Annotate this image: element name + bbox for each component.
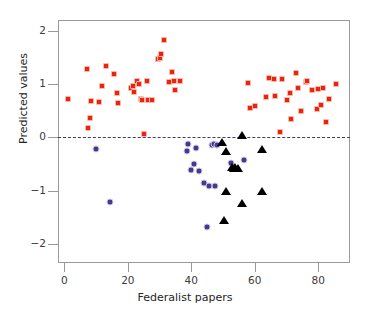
data-point-square	[85, 125, 91, 131]
data-point-square	[149, 97, 155, 103]
plot-area	[58, 20, 350, 263]
x-axis-tick	[318, 263, 319, 272]
data-point-square	[115, 100, 121, 106]
data-point-circle	[212, 182, 219, 189]
data-point-triangle	[237, 131, 247, 139]
data-points-layer	[59, 21, 349, 262]
data-point-circle	[183, 148, 190, 155]
data-point-circle	[196, 168, 203, 175]
data-point-square	[318, 102, 324, 108]
data-point-square	[111, 71, 117, 77]
data-point-square	[279, 76, 285, 82]
data-point-square	[96, 99, 102, 105]
data-point-square	[99, 83, 105, 89]
data-point-square	[169, 69, 175, 75]
data-point-circle	[240, 157, 247, 164]
data-point-square	[271, 76, 277, 82]
data-point-triangle	[233, 164, 243, 172]
x-axis-label: Federalist papers	[0, 291, 370, 304]
data-point-square	[304, 78, 310, 84]
scatter-chart-figure: 210−1−2 020406080 Federalist papers Pred…	[0, 0, 370, 315]
y-axis-tick-label: −2	[6, 237, 46, 249]
data-point-square	[65, 96, 71, 102]
data-point-square	[144, 78, 150, 84]
data-point-square	[136, 81, 142, 87]
data-point-square	[326, 96, 332, 102]
data-point-square	[277, 129, 283, 135]
data-point-square	[284, 97, 290, 103]
data-point-square	[323, 119, 329, 125]
zero-reference-line	[58, 137, 350, 138]
data-point-square	[245, 80, 251, 86]
data-point-square	[103, 63, 109, 69]
data-point-square	[158, 51, 164, 57]
data-point-circle	[191, 161, 198, 168]
x-axis-tick	[128, 263, 129, 272]
data-point-square	[309, 87, 315, 93]
data-point-square	[171, 78, 177, 84]
data-point-square	[87, 115, 93, 121]
data-point-triangle	[217, 138, 227, 146]
data-point-triangle	[221, 147, 231, 155]
y-axis-tick	[48, 244, 58, 245]
data-point-square	[272, 93, 278, 99]
data-point-square	[84, 66, 90, 72]
data-point-square	[141, 131, 147, 137]
data-point-circle	[107, 199, 114, 206]
data-point-triangle	[219, 216, 229, 224]
data-point-square	[295, 85, 301, 91]
data-point-square	[88, 98, 94, 104]
data-point-triangle	[221, 187, 231, 195]
data-point-square	[287, 90, 293, 96]
y-axis-tick	[48, 84, 58, 85]
data-point-square	[177, 78, 183, 84]
x-axis-tick	[255, 263, 256, 272]
data-point-triangle	[257, 145, 267, 153]
data-point-circle	[193, 144, 200, 151]
x-axis-tick	[64, 263, 65, 272]
y-axis-tick	[48, 137, 58, 138]
data-point-square	[263, 94, 269, 100]
data-point-circle	[204, 224, 211, 231]
y-axis-tick	[48, 191, 58, 192]
x-axis-tick-label: 20	[108, 274, 148, 286]
data-point-square	[320, 85, 326, 91]
data-point-square	[298, 108, 304, 114]
data-point-square	[293, 70, 299, 76]
data-point-square	[288, 116, 294, 122]
data-point-square	[252, 103, 258, 109]
data-point-circle	[185, 140, 192, 147]
data-point-square	[139, 97, 145, 103]
x-axis-tick	[191, 263, 192, 272]
x-axis-tick-label: 0	[44, 274, 84, 286]
x-axis-tick-label: 40	[171, 274, 211, 286]
data-point-square	[172, 87, 178, 93]
data-point-triangle	[257, 187, 267, 195]
data-point-square	[131, 89, 137, 95]
data-point-circle	[93, 146, 100, 153]
data-point-triangle	[237, 199, 247, 207]
y-axis-tick-label: −1	[6, 184, 46, 196]
y-axis-label: Predicted values	[17, 14, 30, 184]
x-axis-tick-label: 80	[298, 274, 338, 286]
data-point-square	[333, 81, 339, 87]
y-axis-tick	[48, 31, 58, 32]
data-point-square	[161, 37, 167, 43]
x-axis-tick-label: 60	[235, 274, 275, 286]
data-point-square	[114, 90, 120, 96]
